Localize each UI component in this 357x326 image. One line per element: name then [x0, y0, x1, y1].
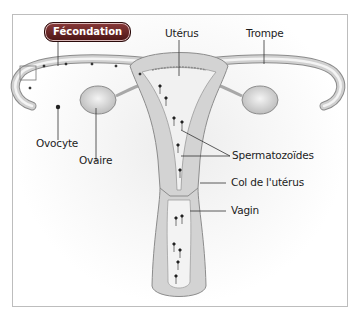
right-ovary [242, 86, 278, 114]
left-ovary [80, 86, 116, 114]
label-vagin: Vagin [231, 204, 259, 216]
label-ovocyte: Ovocyte [36, 137, 78, 149]
vaginal-canal [167, 200, 191, 288]
label-ovaire: Ovaire [79, 154, 112, 166]
label-uterus: Utérus [165, 27, 199, 39]
ovocyte-dot [56, 105, 60, 109]
label-spermatozoides: Spermatozoïdes [232, 149, 314, 161]
label-col-uterus: Col de l'utérus [231, 176, 304, 188]
label-trompe: Trompe [246, 27, 284, 39]
reproductive-system-illustration [0, 0, 357, 326]
fecondation-badge: Fécondation [44, 22, 131, 42]
